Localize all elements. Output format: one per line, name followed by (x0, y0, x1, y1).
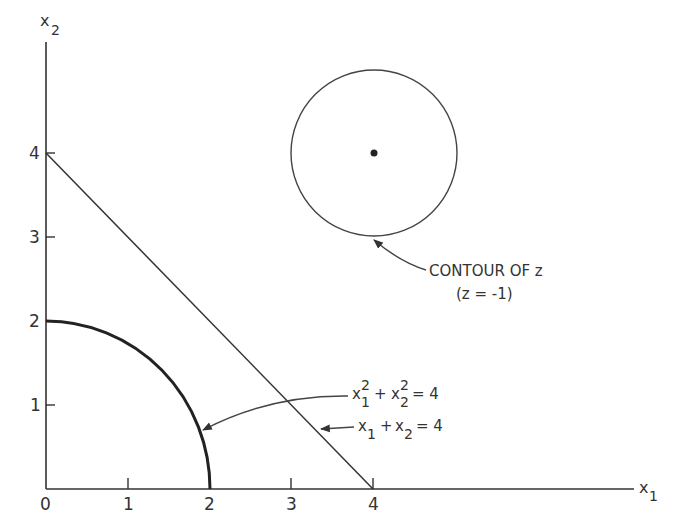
y-tick-3: 3 (29, 227, 40, 247)
y-axis-label: x 2 (40, 11, 60, 38)
svg-text:= 4: = 4 (412, 385, 439, 403)
svg-text:x: x (40, 11, 49, 30)
line-equation-label: x 1 + x 2 = 4 (358, 417, 443, 442)
svg-text:x: x (358, 417, 367, 435)
line-eq-arrow (321, 427, 354, 429)
svg-text:x: x (639, 478, 648, 497)
svg-text:= 4: = 4 (416, 417, 443, 435)
svg-text:x: x (391, 385, 400, 403)
svg-text:+: + (380, 417, 393, 435)
x-tick-4: 4 (368, 494, 379, 514)
svg-text:CONTOUR OF z: CONTOUR OF z (429, 262, 543, 280)
x-tick-3: 3 (286, 494, 297, 514)
y-tick-2: 2 (29, 311, 40, 331)
svg-text:2: 2 (361, 377, 370, 393)
svg-text:x: x (395, 417, 404, 435)
x-tick-0: 0 (40, 494, 51, 514)
y-ticks: 1 2 3 4 (29, 143, 55, 415)
svg-text:1: 1 (649, 488, 658, 504)
contour-annotation: CONTOUR OF z (z = -1) (429, 262, 543, 303)
svg-text:2: 2 (404, 426, 413, 442)
contour-arrow (374, 240, 426, 270)
x-axis-label: x 1 (639, 478, 658, 504)
quarter-circle-constraint (46, 321, 210, 489)
linear-constraint-line (46, 153, 373, 489)
svg-text:(z = -1): (z = -1) (456, 285, 513, 303)
svg-text:1: 1 (367, 426, 376, 442)
svg-text:2: 2 (400, 377, 409, 393)
circle-equation-label: x 1 2 + x 2 2 = 4 (352, 377, 439, 410)
svg-text:2: 2 (51, 22, 60, 38)
x-tick-2: 2 (204, 494, 215, 514)
circle-eq-arrow (203, 396, 348, 430)
center-point (371, 150, 378, 157)
svg-text:2: 2 (400, 394, 409, 410)
svg-text:x: x (352, 385, 361, 403)
svg-text:1: 1 (361, 394, 370, 410)
x-tick-1: 1 (123, 494, 134, 514)
svg-text:+: + (374, 385, 387, 403)
y-tick-1: 1 (30, 395, 41, 415)
diagram-canvas: x 2 x 1 0 1 2 3 4 1 2 3 4 CONTOUR OF z (… (0, 0, 673, 529)
y-tick-4: 4 (29, 143, 40, 163)
